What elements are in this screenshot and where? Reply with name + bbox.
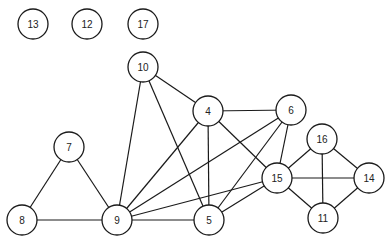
node-12: 12 — [72, 9, 102, 39]
node-9: 9 — [102, 205, 132, 235]
node-label: 7 — [66, 142, 72, 153]
node-label: 8 — [19, 215, 25, 226]
node-7: 7 — [54, 132, 84, 162]
node-4: 4 — [193, 96, 223, 126]
edge-10-9 — [117, 67, 143, 220]
node-17: 17 — [128, 9, 158, 39]
node-16: 16 — [307, 124, 337, 154]
edge-4-5 — [208, 111, 209, 220]
node-label: 15 — [271, 173, 283, 184]
node-label: 5 — [206, 215, 212, 226]
node-label: 16 — [316, 134, 328, 145]
node-11: 11 — [308, 203, 338, 233]
nodes-layer: 1312171046716151489511 — [7, 9, 384, 235]
node-label: 6 — [288, 105, 294, 116]
node-label: 13 — [27, 19, 39, 30]
node-label: 9 — [114, 215, 120, 226]
node-15: 15 — [262, 163, 292, 193]
node-label: 17 — [137, 19, 149, 30]
edge-4-9 — [117, 111, 208, 220]
node-13: 13 — [18, 9, 48, 39]
node-label: 14 — [363, 173, 375, 184]
node-label: 12 — [81, 19, 93, 30]
edge-6-9 — [117, 110, 291, 220]
graph-diagram: 1312171046716151489511 — [0, 0, 392, 243]
node-label: 10 — [137, 62, 149, 73]
node-label: 4 — [205, 106, 211, 117]
node-8: 8 — [7, 205, 37, 235]
node-14: 14 — [354, 163, 384, 193]
node-label: 11 — [318, 213, 329, 224]
node-6: 6 — [276, 95, 306, 125]
node-10: 10 — [128, 52, 158, 82]
node-5: 5 — [194, 205, 224, 235]
